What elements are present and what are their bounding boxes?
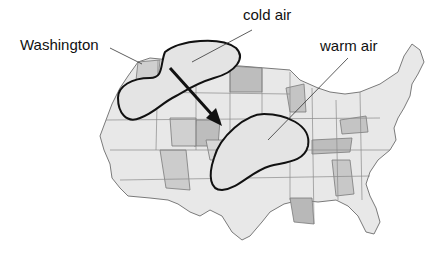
warm-air-label: warm air: [320, 37, 378, 54]
cold-air-label: cold air: [243, 6, 291, 23]
washington-leader-line: [110, 48, 142, 64]
washington-label: Washington: [20, 36, 99, 53]
